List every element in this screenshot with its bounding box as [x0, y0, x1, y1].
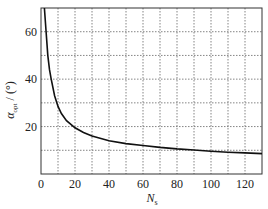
y-tick-label: 60	[25, 25, 37, 39]
y-axis-label: αopt / (°)	[3, 81, 19, 118]
x-tick-label: 80	[171, 177, 183, 191]
x-tick-label: 20	[69, 177, 81, 191]
y-axis-ticks: 204060	[25, 25, 37, 134]
x-tick-label: 100	[202, 177, 220, 191]
x-tick-label: 40	[103, 177, 115, 191]
y-tick-label: 20	[25, 120, 37, 134]
x-axis-label: Ns	[145, 191, 157, 207]
y-tick-label: 40	[25, 72, 37, 86]
x-axis-ticks: 020406080100120	[38, 177, 254, 191]
x-tick-label: 120	[236, 177, 254, 191]
x-tick-label: 0	[38, 177, 44, 191]
grid-lines	[41, 8, 262, 174]
plot-frame	[41, 8, 262, 174]
data-curve	[44, 8, 262, 154]
line-chart: 020406080100120 204060 Ns αopt / (°)	[0, 0, 268, 209]
x-tick-label: 60	[137, 177, 149, 191]
